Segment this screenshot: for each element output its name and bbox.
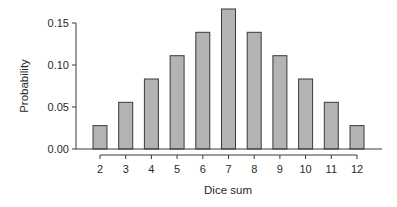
y-tick-label: 0.10 <box>48 59 69 71</box>
bar-chart: 0.000.050.100.15 23456789101112 Probabil… <box>0 0 397 207</box>
bar-10 <box>299 79 313 149</box>
x-tick-label: 11 <box>326 163 337 175</box>
x-tick-label: 6 <box>200 163 206 175</box>
bar-2 <box>93 126 107 149</box>
y-axis: 0.000.050.100.15 <box>48 17 76 155</box>
x-tick-label: 10 <box>299 163 311 175</box>
y-axis-title: Probability <box>18 59 30 113</box>
x-tick-label: 9 <box>277 163 283 175</box>
bar-4 <box>144 79 158 149</box>
x-tick-label: 8 <box>251 163 257 175</box>
bar-11 <box>324 102 338 149</box>
x-axis: 23456789101112 <box>97 155 363 175</box>
bars-group <box>93 9 364 149</box>
bar-8 <box>247 32 261 149</box>
x-tick-label: 3 <box>123 163 129 175</box>
y-tick-label: 0.05 <box>48 101 69 113</box>
x-tick-label: 2 <box>97 163 103 175</box>
x-tick-label: 12 <box>351 163 363 175</box>
y-tick-label: 0.00 <box>48 143 69 155</box>
bar-6 <box>196 32 210 149</box>
bar-7 <box>222 9 236 149</box>
x-tick-label: 4 <box>148 163 154 175</box>
bar-5 <box>170 56 184 149</box>
x-tick-label: 7 <box>225 163 231 175</box>
bar-9 <box>273 56 287 149</box>
bar-12 <box>350 126 364 149</box>
x-axis-title: Dice sum <box>204 184 252 196</box>
bar-3 <box>119 102 133 149</box>
y-tick-label: 0.15 <box>48 17 69 29</box>
x-tick-label: 5 <box>174 163 180 175</box>
